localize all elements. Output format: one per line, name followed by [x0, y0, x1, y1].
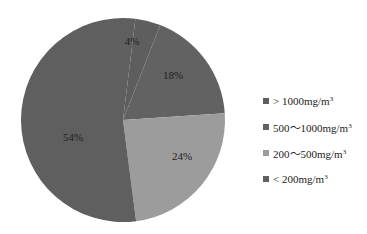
slice-200-500 — [123, 113, 225, 221]
legend-item-200-500: 200～500mg/m3 — [263, 140, 352, 166]
slice-label: 24% — [172, 150, 192, 162]
legend-swatch-icon — [263, 124, 269, 130]
legend-swatch-icon — [263, 176, 269, 182]
legend-item-under-200: < 200mg/m3 — [263, 166, 352, 192]
slice-label: 54% — [63, 131, 83, 143]
legend-superscript: 3 — [330, 95, 334, 103]
slice-label: 18% — [163, 69, 183, 81]
legend-label: 500～1000mg/m — [273, 122, 348, 134]
legend-label: 200～500mg/m — [273, 148, 343, 160]
legend-swatch-icon — [263, 98, 269, 104]
legend-label: < 200mg/m — [273, 173, 324, 185]
slice-under-200 — [21, 18, 136, 222]
slice-label: 4% — [125, 35, 140, 47]
legend: > 1000mg/m3 500～1000mg/m3 200～500mg/m3 <… — [263, 88, 352, 192]
legend-item-over-1000: > 1000mg/m3 — [263, 88, 352, 114]
legend-superscript: 3 — [348, 122, 352, 130]
legend-item-500-1000: 500～1000mg/m3 — [263, 114, 352, 140]
legend-label: > 1000mg/m — [273, 95, 330, 107]
legend-superscript: 3 — [343, 148, 347, 156]
legend-swatch-icon — [263, 150, 269, 156]
legend-superscript: 3 — [324, 173, 328, 181]
